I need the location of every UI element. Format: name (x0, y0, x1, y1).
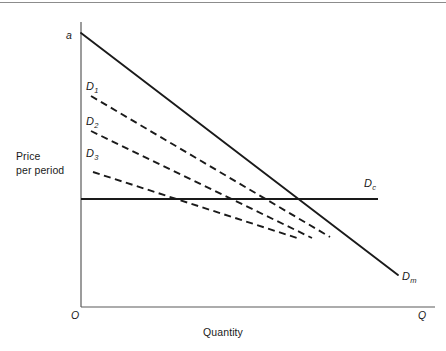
y-axis-title: Price per period (16, 150, 64, 177)
curve-label-dm-subscript: m (410, 276, 416, 285)
curve-label-d3: D3 (86, 147, 98, 159)
curve-label-d3-subscript: 3 (94, 153, 98, 162)
curve-label-d3-base: D (86, 147, 94, 159)
curve-label-d1: D1 (86, 80, 98, 92)
origin-label: O (71, 309, 79, 321)
curve-label-dm: Dm (402, 270, 416, 282)
curve-label-dc-subscript: c (372, 183, 376, 192)
curve-label-dm-base: D (402, 270, 410, 282)
curve-label-d2: D2 (86, 115, 98, 127)
curve-d1 (91, 96, 330, 237)
curve-label-d1-subscript: 1 (94, 86, 98, 95)
curve-label-dc: Dc (364, 177, 376, 189)
curve-label-d2-subscript: 2 (94, 121, 98, 130)
curve-dm (81, 33, 398, 275)
curve-label-dc-base: D (364, 177, 372, 189)
demand-curve-chart (0, 0, 446, 351)
curve-label-d1-base: D (86, 80, 94, 92)
y-intercept-label-a: a (66, 29, 72, 41)
curve-label-d2-base: D (86, 115, 94, 127)
figure-canvas: Price per period Quantity a O Q D1 D2 D3… (0, 0, 446, 351)
x-axis-title: Quantity (0, 326, 446, 340)
x-axis-end-label: Q (418, 309, 426, 321)
